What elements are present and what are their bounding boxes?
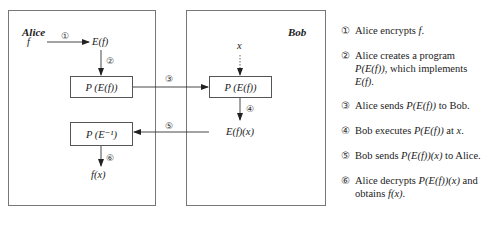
legend-step-5: ⑤ Bob sends P(E(f))(x) to Alice. [341, 149, 484, 163]
step-6-marker: ⑥ [106, 153, 114, 163]
alice-encrypted-ef: E(f) [92, 36, 108, 47]
alice-program-box: P (E(f)) [70, 76, 133, 98]
step-2-marker: ② [106, 56, 114, 66]
alice-input-f: f [27, 36, 30, 47]
bob-input-x: x [237, 40, 242, 51]
alice-decrypt-label: P (E⁻¹) [86, 128, 117, 140]
legend-step-6-number: ⑥ [341, 174, 355, 188]
alice-program-label: P (E(f)) [85, 82, 117, 93]
legend-step-1: ① Alice encrypts f. [341, 24, 484, 38]
legend-step-1-number: ① [341, 24, 355, 38]
bob-program-label: P (E(f)) [224, 82, 256, 93]
legend-step-6-text: Alice decrypts P(E(f))(x) and obtains f(… [355, 174, 484, 200]
legend-step-1-text: Alice encrypts f. [355, 24, 484, 37]
alice-decrypt-box: P (E⁻¹) [70, 122, 133, 146]
steps-legend: ① Alice encrypts f. ② Alice creates a pr… [341, 24, 484, 211]
legend-step-6: ⑥ Alice decrypts P(E(f))(x) and obtains … [341, 174, 484, 200]
legend-step-3-number: ③ [341, 99, 355, 113]
bob-output-efx: E(f)(x) [226, 126, 254, 137]
legend-step-4-text: Bob executes P(E(f)) at x. [355, 124, 484, 137]
alice-title: Alice [22, 26, 45, 38]
bob-program-box: P (E(f)) [209, 76, 272, 98]
legend-step-2-text: Alice creates a program P(E(f)), which i… [355, 49, 484, 88]
legend-step-4: ④ Bob executes P(E(f)) at x. [341, 124, 484, 138]
legend-step-4-number: ④ [341, 124, 355, 138]
legend-step-3-text: Alice sends P(E(f)) to Bob. [355, 99, 484, 112]
alice-result-fx: f(x) [91, 169, 106, 180]
bob-title: Bob [288, 26, 306, 38]
legend-step-5-text: Bob sends P(E(f))(x) to Alice. [355, 149, 484, 162]
step-1-marker: ① [61, 31, 69, 41]
legend-step-2: ② Alice creates a program P(E(f)), which… [341, 49, 484, 88]
step-4-marker: ④ [246, 104, 254, 114]
legend-step-3: ③ Alice sends P(E(f)) to Bob. [341, 99, 484, 113]
step-3-marker: ③ [165, 74, 173, 84]
legend-step-5-number: ⑤ [341, 149, 355, 163]
step-5-marker: ⑤ [165, 121, 173, 131]
legend-step-2-number: ② [341, 49, 355, 63]
